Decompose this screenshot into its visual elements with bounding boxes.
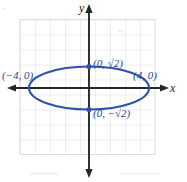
point-0-sqrt2	[86, 64, 91, 69]
coordinate-plane-svg	[0, 0, 187, 182]
label-point-top: (0, √2)	[93, 58, 123, 69]
y-axis-label: y	[79, 2, 84, 14]
y-axis-arrow-up	[85, 4, 92, 13]
label-point-bottom: (0, −√2)	[93, 108, 130, 119]
x-axis-arrow-right	[160, 84, 169, 91]
x-axis-label: x	[170, 82, 175, 94]
x-axis-arrow-left	[7, 84, 16, 91]
grid	[20, 20, 155, 155]
point-0-neg-sqrt2	[86, 107, 91, 112]
label-point-right: (4, 0)	[133, 70, 157, 81]
label-point-left: (−4, 0)	[2, 70, 33, 81]
graph-figure: (0, √2) (0, −√2) (−4, 0) (4, 0) y x	[0, 0, 187, 182]
y-axis-arrow-down	[85, 169, 92, 178]
